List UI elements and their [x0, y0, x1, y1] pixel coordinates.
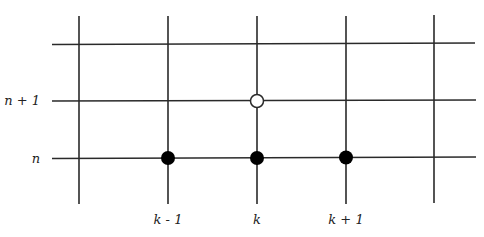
col-label-k: k — [253, 212, 261, 227]
col-label-k-plus-1: k + 1 — [328, 212, 363, 227]
filled-node-n-k-plus-1 — [339, 151, 353, 165]
grid-line-row-n — [52, 157, 476, 159]
filled-node-n-k-minus-1 — [161, 151, 175, 165]
stencil-diagram: n + 1 n k - 1 k k + 1 — [0, 0, 484, 237]
col-label-k-minus-1: k - 1 — [154, 212, 183, 227]
open-node-n-plus-1-k — [251, 95, 264, 108]
filled-node-n-k — [250, 151, 264, 165]
row-label-n: n — [32, 151, 40, 166]
row-label-n-plus-1: n + 1 — [4, 93, 40, 108]
grid-line-top — [52, 43, 475, 45]
